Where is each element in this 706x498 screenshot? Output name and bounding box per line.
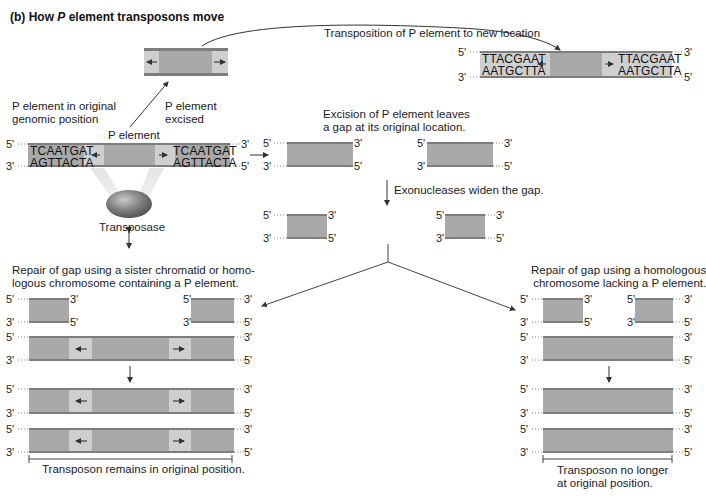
strand-end: 5' [263, 209, 271, 221]
excision-gap [274, 142, 503, 167]
strand-end: 5' [684, 71, 692, 83]
strand-end: 5' [684, 354, 692, 366]
strand-end: 5' [354, 160, 362, 172]
strand-end: 3' [436, 232, 444, 244]
strand-end: 3' [6, 160, 14, 172]
strand-end: 3' [684, 383, 692, 395]
strand-end: 3' [520, 316, 528, 328]
original-position-label: P element in original genomic position [12, 100, 116, 126]
transposase-icon [106, 190, 152, 218]
transposition-label: Transposition of P element to new locati… [324, 27, 540, 40]
strand-end: 3' [244, 293, 252, 305]
strand-end: 3' [244, 423, 252, 435]
strand-end: 3' [244, 383, 252, 395]
strand-end: 5' [328, 232, 336, 244]
strand-end: 3' [241, 138, 249, 150]
strand-end: 5' [520, 383, 528, 395]
widened-gap [274, 214, 495, 239]
strand-end: 3' [458, 71, 466, 83]
exonucleases-label: Exonucleases widen the gap. [394, 184, 544, 197]
repair-right-label: Repair of gap using a homologous chromos… [531, 264, 706, 290]
strand-end: 5' [6, 423, 14, 435]
strand-end: 3' [504, 137, 512, 149]
strand-end: 3' [684, 293, 692, 305]
strand-end: 5' [684, 316, 692, 328]
strand-end: 3' [183, 316, 191, 328]
repair-left-label: Repair of gap using a sister chromatid o… [12, 264, 255, 290]
strand-end: 5' [241, 160, 249, 172]
original-seq-left: TCAATGAT AGTTACTA [30, 145, 94, 169]
strand-end: 3' [6, 354, 14, 366]
strand-end: 3' [244, 331, 252, 343]
p-element-label: P element [108, 129, 160, 142]
strand-end: 5' [70, 316, 78, 328]
right-repair [532, 298, 683, 463]
strand-end: 5' [244, 354, 252, 366]
result-right-label: Transposon no longer at original positio… [557, 464, 668, 490]
strand-end: 3' [263, 232, 271, 244]
strand-end: 5' [684, 446, 692, 458]
strand-end: 3' [520, 407, 528, 419]
strand-end: 5' [6, 331, 14, 343]
excision-label: Excision of P element leaves a gap at it… [323, 108, 470, 134]
strand-end: 3' [627, 316, 635, 328]
strand-end: 5' [244, 407, 252, 419]
new-seq-left: TTACGAAT AATGCTTA [482, 53, 546, 77]
strand-end: 3' [328, 209, 336, 221]
strand-end: 3' [70, 293, 78, 305]
strand-end: 5' [263, 137, 271, 149]
original-seq-right: TCAATGAT AGTTACTA [173, 145, 237, 169]
strand-end: 5' [584, 316, 592, 328]
strand-end: 5' [458, 46, 466, 58]
strand-end: 5' [520, 331, 528, 343]
strand-end: 5' [684, 407, 692, 419]
strand-end: 3' [6, 316, 14, 328]
result-left-label: Transposon remains in original position. [42, 463, 245, 476]
strand-end: 5' [6, 293, 14, 305]
strand-end: 3' [520, 446, 528, 458]
strand-end: 3' [263, 160, 271, 172]
strand-end: 3' [684, 423, 692, 435]
strand-end: 3' [684, 331, 692, 343]
strand-end: 5' [504, 160, 512, 172]
strand-end: 5' [520, 293, 528, 305]
strand-end: 3' [354, 137, 362, 149]
strand-end: 3' [584, 293, 592, 305]
strand-end: 3' [684, 46, 692, 58]
strand-end: 5' [183, 293, 191, 305]
strand-end: 5' [244, 446, 252, 458]
left-repair [18, 298, 244, 463]
strand-end: 3' [496, 209, 504, 221]
strand-end: 5' [436, 209, 444, 221]
strand-end: 5' [6, 138, 14, 150]
strand-end: 5' [244, 316, 252, 328]
strand-end: 5' [520, 423, 528, 435]
excised-p-element [144, 48, 228, 76]
strand-end: 5' [627, 293, 635, 305]
strand-end: 3' [6, 446, 14, 458]
strand-end: 3' [417, 160, 425, 172]
strand-end: 5' [496, 232, 504, 244]
excised-label: P element excised [165, 100, 217, 126]
new-seq-right: TTACGAAT AATGCTTA [618, 53, 682, 77]
strand-end: 5' [6, 383, 14, 395]
strand-end: 5' [417, 137, 425, 149]
transposase-label: Transposase [99, 221, 165, 234]
strand-end: 3' [6, 407, 14, 419]
strand-end: 3' [520, 354, 528, 366]
